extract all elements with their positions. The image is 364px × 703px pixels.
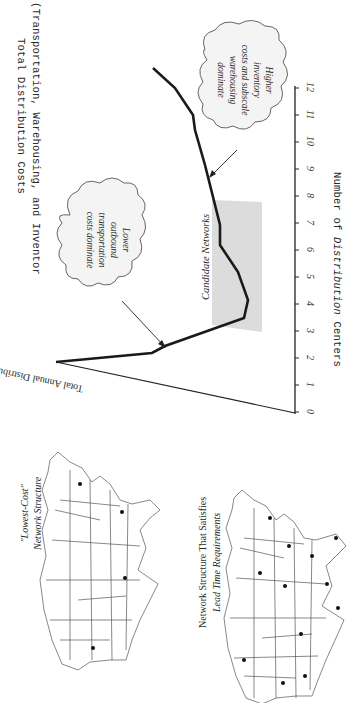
x-tick-11: 11 (305, 110, 316, 119)
arrowhead-right-icon (209, 170, 216, 178)
x-tick-4: 4 (305, 301, 316, 306)
x-tick-10: 10 (305, 136, 316, 146)
callout-right-text: Higher inventory costs and subscale ware… (215, 30, 275, 130)
dc-dot (336, 606, 340, 610)
y-axis-line (56, 362, 295, 413)
map-lowest-cost (40, 452, 160, 670)
x-tick-8: 8 (305, 193, 316, 198)
dc-dot (258, 571, 262, 575)
x-tick-0: 0 (305, 409, 316, 414)
x-tick-12: 12 (305, 82, 316, 92)
figure-canvas: Total Distribution Costs (Transportation… (0, 0, 364, 703)
map-2-dc-dots (242, 516, 340, 685)
x-tick-2: 2 (305, 355, 316, 360)
callout-left-text: Lower outbound transportation costs domi… (84, 190, 132, 290)
dc-dot (78, 482, 82, 486)
dc-dot (334, 536, 338, 540)
dc-dot (283, 584, 287, 588)
candidate-networks-label: Candidate Networks (200, 214, 211, 300)
us-outline-map-2 (224, 490, 346, 703)
map-2-title: Network Structure That Satisfies Lead Ti… (196, 497, 224, 628)
dc-dot (299, 632, 303, 636)
x-tick-1: 1 (305, 382, 316, 387)
callout-arrow-right (212, 150, 237, 175)
chart-title-line-1: Total Distribution Costs (15, 38, 27, 194)
dc-dot (120, 510, 124, 514)
x-tick-9: 9 (305, 166, 316, 171)
map-1-title: "Lowest-Cost" Network Structure (18, 477, 44, 550)
chart-graphics (0, 0, 364, 703)
dc-dot (268, 516, 272, 520)
callout-arrow-left (122, 301, 164, 346)
dc-dot (242, 658, 246, 662)
x-tick-7: 7 (305, 220, 316, 225)
dc-dot (123, 576, 127, 580)
x-axis-label: Number of Distribution Centers (331, 172, 343, 367)
us-outline-map-1 (40, 452, 160, 670)
dc-dot (325, 582, 329, 586)
dc-dot (310, 554, 314, 558)
x-tick-6: 6 (305, 247, 316, 252)
dc-dot (303, 674, 307, 678)
x-tick-5: 5 (305, 274, 316, 279)
dc-dot (91, 646, 95, 650)
dc-dot (287, 544, 291, 548)
dc-dot (281, 681, 285, 685)
chart-title-line-2: (Transportation, Warehousing, and Invent… (30, 2, 42, 275)
map-1-dc-dots (78, 482, 127, 650)
map-lead-time (224, 490, 346, 703)
x-tick-3: 3 (305, 328, 316, 333)
